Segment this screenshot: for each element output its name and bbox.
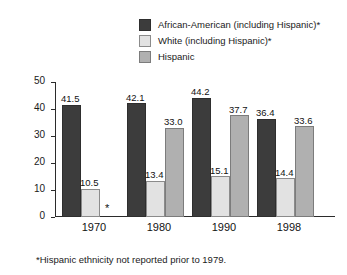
- bar-slot-1980-african-american: 42.1: [127, 82, 146, 217]
- bar-1980-african-american[interactable]: [127, 103, 146, 217]
- bar-slot-1970-african-american: 41.5: [62, 82, 81, 217]
- bar-1980-white[interactable]: [146, 181, 165, 217]
- bar-1990-white[interactable]: [211, 176, 230, 217]
- x-tick-label-1998: 1998: [257, 221, 321, 233]
- bar-value-1990-hispanic: 37.7: [229, 104, 248, 115]
- bar-value-1980-african-american: 42.1: [126, 92, 145, 103]
- bar-group-1970: 41.5 10.5 * 1970: [62, 82, 126, 217]
- bar-slot-1970-white: 10.5: [81, 82, 100, 217]
- bar-1980-hispanic[interactable]: [165, 128, 184, 217]
- legend-label-african-american: African-American (including Hispanic)*: [158, 19, 320, 31]
- bar-slot-1980-hispanic: 33.0: [165, 82, 184, 217]
- bar-group-1998: 36.4 14.4 33.6 1998: [257, 82, 321, 217]
- bar-slot-1998-african-american: 36.4: [257, 82, 276, 217]
- legend-item-african-american: African-American (including Hispanic)*: [139, 18, 320, 31]
- bar-1970-african-american[interactable]: [62, 105, 81, 217]
- legend-item-white: White (including Hispanic)*: [139, 34, 320, 47]
- legend-swatch-hispanic: [139, 51, 151, 63]
- bar-1998-white[interactable]: [276, 178, 295, 217]
- bar-slot-1980-white: 13.4: [146, 82, 165, 217]
- legend-swatch-white: [139, 35, 151, 47]
- bar-group-1980: 42.1 13.4 33.0 1980: [127, 82, 191, 217]
- bar-value-1998-white: 14.4: [275, 167, 294, 178]
- x-tick-label-1990: 1990: [192, 221, 256, 233]
- bar-value-1970-african-american: 41.5: [61, 93, 80, 104]
- bar-value-1990-white: 15.1: [210, 165, 229, 176]
- y-tick-10: 10: [51, 190, 55, 191]
- chart-legend: African-American (including Hispanic)* W…: [139, 18, 320, 63]
- bar-1990-hispanic[interactable]: [230, 115, 249, 217]
- y-tick-40: 40: [51, 109, 55, 110]
- x-tick-label-1980: 1980: [127, 221, 191, 233]
- y-tick-label-50: 50: [34, 75, 45, 86]
- not-available-marker-1970-hispanic: *: [105, 205, 109, 211]
- chart-footnote: *Hispanic ethnicity not reported prior t…: [36, 254, 226, 265]
- y-tick-20: 20: [51, 163, 55, 164]
- legend-label-hispanic: Hispanic: [158, 51, 194, 63]
- bar-value-1998-hispanic: 33.6: [294, 115, 313, 126]
- y-tick-label-0: 0: [39, 210, 45, 221]
- bar-slot-1998-white: 14.4: [276, 82, 295, 217]
- legend-swatch-african-american: [139, 19, 151, 31]
- bar-value-1998-african-american: 36.4: [256, 107, 275, 118]
- y-tick-label-40: 40: [34, 102, 45, 113]
- bar-value-1990-african-american: 44.2: [191, 86, 210, 97]
- legend-label-white: White (including Hispanic)*: [158, 35, 272, 47]
- bar-value-1980-white: 13.4: [145, 169, 164, 180]
- chart-screenshot: African-American (including Hispanic)* W…: [0, 0, 347, 275]
- y-tick-30: 30: [51, 136, 55, 137]
- bar-value-1980-hispanic: 33.0: [164, 116, 183, 127]
- bar-1990-african-american[interactable]: [192, 98, 211, 217]
- x-tick-label-1970: 1970: [62, 221, 126, 233]
- y-tick-0: 0: [51, 217, 55, 218]
- bar-group-1990: 44.2 15.1 37.7 1990: [192, 82, 256, 217]
- bar-slot-1998-hispanic: 33.6: [295, 82, 314, 217]
- y-tick-label-20: 20: [34, 156, 45, 167]
- legend-item-hispanic: Hispanic: [139, 50, 320, 63]
- y-tick-label-30: 30: [34, 129, 45, 140]
- y-tick-50: 50: [51, 82, 55, 83]
- bar-1970-white[interactable]: [81, 189, 100, 217]
- y-tick-label-10: 10: [34, 183, 45, 194]
- bar-1998-african-american[interactable]: [257, 119, 276, 217]
- bar-groups: 41.5 10.5 * 1970 42.1: [56, 82, 335, 217]
- bar-slot-1990-african-american: 44.2: [192, 82, 211, 217]
- bar-1998-hispanic[interactable]: [295, 126, 314, 217]
- bar-slot-1990-hispanic: 37.7: [230, 82, 249, 217]
- bar-slot-1970-hispanic: *: [100, 82, 119, 217]
- bar-slot-1990-white: 15.1: [211, 82, 230, 217]
- plot-area: Percentage of children below poverty 0 1…: [55, 82, 335, 217]
- bar-value-1970-white: 10.5: [80, 177, 99, 188]
